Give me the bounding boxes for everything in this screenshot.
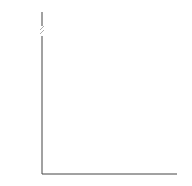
axis-break-icon (40, 26, 44, 34)
chart (0, 0, 192, 186)
